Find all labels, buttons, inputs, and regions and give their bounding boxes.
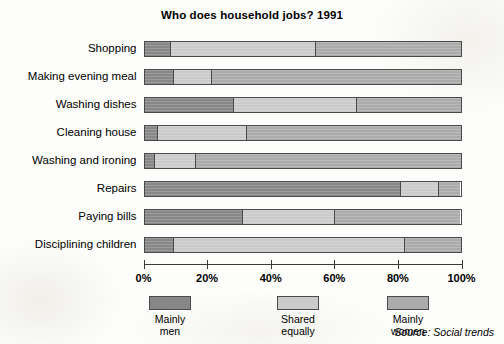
legend-swatch-women — [387, 296, 429, 310]
axis-tick-label: 80% — [387, 272, 409, 284]
bar-segment-shared — [173, 238, 404, 252]
legend-label: men — [130, 325, 210, 337]
bar-segment-women — [334, 210, 460, 224]
axis-tick — [398, 260, 399, 269]
bar-row: Cleaning house — [144, 125, 462, 141]
bar-segment-shared — [157, 126, 245, 140]
legend-label: Mainly — [130, 313, 210, 325]
bar-segment-shared — [154, 154, 195, 168]
bar-segment-shared — [400, 182, 438, 196]
chart-title: Who does household jobs? 1991 — [0, 9, 504, 21]
source-note: Source: Social trends — [394, 326, 494, 338]
bar-segment-men — [145, 70, 173, 84]
stacked-bar — [144, 69, 462, 85]
legend-item-shared: Sharedequally — [258, 296, 338, 337]
axis-tick-label: 0% — [136, 272, 152, 284]
bar-segment-women — [356, 98, 460, 112]
bar-segment-shared — [173, 70, 211, 84]
bar-row: Shopping — [144, 41, 462, 57]
axis-tick-label: 40% — [260, 272, 282, 284]
legend-label: equally — [258, 325, 338, 337]
bar-segment-women — [211, 70, 461, 84]
bar-segment-women — [195, 154, 460, 168]
bar-segment-men — [145, 42, 170, 56]
bar-segment-shared — [170, 42, 315, 56]
legend-swatch-shared — [277, 296, 319, 310]
axis-tick-label: 20% — [196, 272, 218, 284]
stacked-bar — [144, 41, 462, 57]
stacked-bar — [144, 97, 462, 113]
stacked-bar — [144, 181, 462, 197]
category-label: Paying bills — [0, 208, 137, 225]
bar-segment-shared — [233, 98, 356, 112]
bar-row: Paying bills — [144, 209, 462, 225]
bar-segment-shared — [242, 210, 334, 224]
category-label: Washing dishes — [0, 96, 137, 113]
bar-segment-men — [145, 210, 243, 224]
category-label: Repairs — [0, 180, 137, 197]
bar-segment-men — [145, 126, 158, 140]
axis-tick — [207, 260, 208, 269]
bar-segment-women — [438, 182, 460, 196]
category-label: Disciplining children — [0, 236, 137, 253]
legend-item-men: Mainlymen — [130, 296, 210, 337]
axis-tick — [334, 260, 335, 269]
bar-row: Making evening meal — [144, 69, 462, 85]
category-label: Making evening meal — [0, 68, 137, 85]
axis-tick — [271, 260, 272, 269]
category-label: Washing and ironing — [0, 152, 137, 169]
stacked-bar-chart: Who does household jobs? 1991 ShoppingMa… — [0, 0, 504, 344]
legend-label: Shared — [258, 313, 338, 325]
axis-line — [144, 264, 462, 265]
category-label: Shopping — [0, 40, 137, 57]
stacked-bar — [144, 125, 462, 141]
bar-segment-men — [145, 182, 401, 196]
stacked-bar — [144, 209, 462, 225]
bar-segment-women — [404, 238, 461, 252]
axis-tick — [462, 260, 463, 269]
bar-row: Disciplining children — [144, 237, 462, 253]
legend-label: Mainly — [368, 313, 448, 325]
axis-tick — [144, 260, 145, 269]
stacked-bar — [144, 153, 462, 169]
stacked-bar — [144, 237, 462, 253]
legend-swatch-men — [149, 296, 191, 310]
axis-tick-label: 60% — [323, 272, 345, 284]
axis-tick-label: 100% — [447, 272, 475, 284]
bar-row: Repairs — [144, 181, 462, 197]
bar-segment-women — [315, 42, 460, 56]
bar-segment-women — [246, 126, 461, 140]
bar-segment-men — [145, 98, 233, 112]
bar-row: Washing dishes — [144, 97, 462, 113]
category-label: Cleaning house — [0, 124, 137, 141]
bar-segment-men — [145, 238, 173, 252]
bar-row: Washing and ironing — [144, 153, 462, 169]
bar-segment-men — [145, 154, 154, 168]
